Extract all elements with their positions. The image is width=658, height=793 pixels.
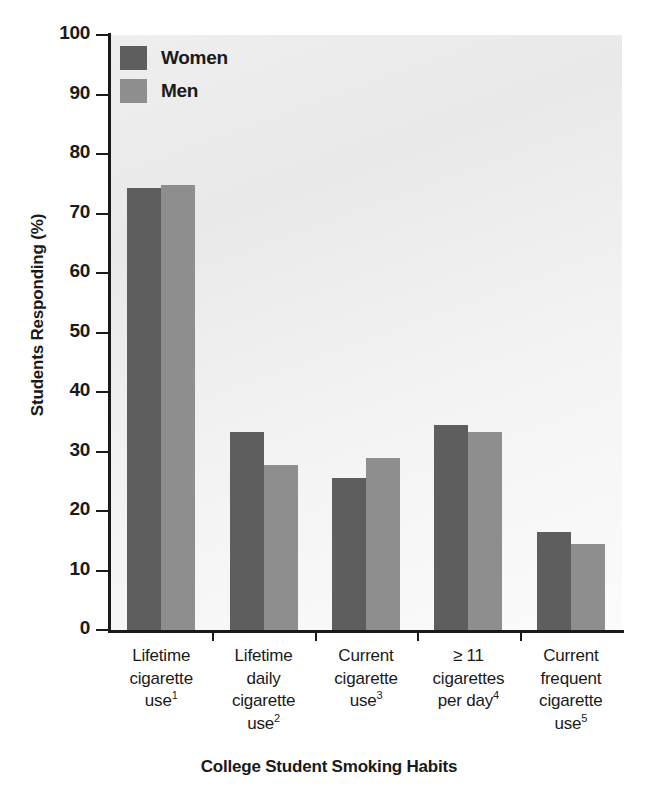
x-category-footnote-marker: 5 — [581, 712, 587, 724]
y-tick-mark — [96, 451, 110, 453]
y-tick-label: 0 — [22, 617, 90, 639]
y-tick-label: 20 — [22, 498, 90, 520]
x-category-label-line: use1 — [104, 690, 218, 713]
bar-women — [332, 478, 366, 630]
bar-women — [127, 188, 161, 630]
y-tick-mark — [96, 153, 110, 155]
y-tick-label: 100 — [22, 22, 90, 44]
x-category-footnote-marker: 2 — [274, 712, 280, 724]
x-tick-mark — [212, 630, 214, 641]
y-tick-mark — [96, 629, 110, 631]
x-category-label-line: use2 — [206, 713, 320, 736]
x-category-footnote-marker: 1 — [172, 690, 178, 702]
x-category-label-line: cigarettes — [411, 668, 525, 691]
y-tick-label: 30 — [22, 439, 90, 461]
x-category-label: Currentfrequentcigaretteuse5 — [514, 645, 628, 735]
x-category-label: Currentcigaretteuse3 — [309, 645, 423, 713]
y-axis-title: Students Responding (%) — [28, 185, 48, 445]
x-category-label-line: Current — [309, 645, 423, 668]
x-category-label-line: daily — [206, 668, 320, 691]
x-category-label-line: cigarette — [104, 668, 218, 691]
x-category-footnote-marker: 3 — [376, 690, 382, 702]
bar-men — [161, 185, 195, 630]
legend-item-women: Women — [120, 46, 228, 70]
x-category-label-line: per day4 — [411, 690, 525, 713]
bar-men — [264, 465, 298, 630]
x-category-label: Lifetimecigaretteuse1 — [104, 645, 218, 713]
x-category-label-line: Lifetime — [104, 645, 218, 668]
y-tick-label: 90 — [22, 82, 90, 104]
x-category-label-line: Current — [514, 645, 628, 668]
x-tick-mark — [520, 630, 522, 641]
bar-women — [434, 425, 468, 630]
y-tick-label: 70 — [22, 201, 90, 223]
x-category-label-line: cigarette — [514, 690, 628, 713]
bar-men — [571, 544, 605, 630]
x-category-label-line: ≥ 11 — [411, 645, 525, 668]
x-axis-title: College Student Smoking Habits — [0, 757, 658, 777]
x-tick-mark — [417, 630, 419, 641]
legend-item-men: Men — [120, 79, 228, 103]
x-category-label-line: Lifetime — [206, 645, 320, 668]
x-category-label: Lifetimedailycigaretteuse2 — [206, 645, 320, 735]
x-category-footnote-marker: 4 — [493, 690, 499, 702]
x-category-label-line: frequent — [514, 668, 628, 691]
chart-figure: Students Responding (%) 1009080706050403… — [0, 0, 658, 793]
y-tick-label: 40 — [22, 379, 90, 401]
y-tick-mark — [96, 332, 110, 334]
legend-swatch-women-icon — [120, 46, 147, 70]
bar-women — [230, 432, 264, 630]
y-tick-label: 50 — [22, 320, 90, 342]
y-tick-mark — [96, 391, 110, 393]
bar-men — [366, 458, 400, 630]
x-category-label: ≥ 11cigarettesper day4 — [411, 645, 525, 713]
chart-legend: Women Men — [120, 46, 228, 112]
bar-women — [537, 532, 571, 630]
y-tick-mark — [96, 570, 110, 572]
y-tick-label: 10 — [22, 558, 90, 580]
bar-men — [468, 432, 502, 630]
y-tick-label: 80 — [22, 141, 90, 163]
y-tick-mark — [96, 272, 110, 274]
y-tick-mark — [96, 34, 110, 36]
y-tick-mark — [96, 94, 110, 96]
x-tick-mark — [315, 630, 317, 641]
x-category-label-line: use5 — [514, 713, 628, 736]
x-category-label-line: cigarette — [206, 690, 320, 713]
legend-label-men: Men — [161, 80, 198, 102]
y-tick-mark — [96, 213, 110, 215]
x-category-label-line: use3 — [309, 690, 423, 713]
x-category-label-line: cigarette — [309, 668, 423, 691]
x-axis-line — [108, 630, 624, 633]
legend-swatch-men-icon — [120, 79, 147, 103]
y-tick-mark — [96, 510, 110, 512]
legend-label-women: Women — [161, 47, 228, 69]
y-tick-label: 60 — [22, 260, 90, 282]
